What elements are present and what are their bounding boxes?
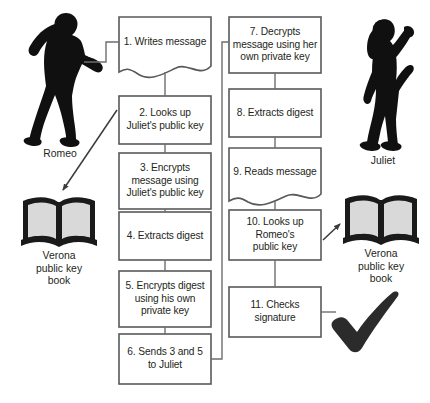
open-book-icon-right (343, 195, 419, 245)
open-book-icon-left (21, 197, 97, 247)
step-1-shape (119, 17, 211, 77)
step-5-shape (119, 271, 211, 327)
connector-step6-step7 (211, 42, 229, 359)
step-10-shape (229, 210, 321, 260)
step-2-shape (119, 96, 211, 144)
step-4-shape (119, 212, 211, 260)
step-11-shape (229, 287, 321, 337)
step-8-shape (229, 89, 321, 137)
step-9-shape (229, 148, 321, 205)
juliet-silhouette (360, 19, 414, 151)
flowchart-diagram: 1. Writes message 2. Looks up Juliet's p… (0, 0, 430, 403)
left-book-label: Verona public key book (17, 250, 101, 288)
arrow-step10-to-right-book (323, 224, 340, 240)
diagram-graphics (0, 0, 430, 403)
step-7-shape (229, 17, 321, 73)
check-mark-icon (332, 292, 399, 353)
step-3-shape (119, 153, 211, 209)
right-book-label: Verona public key book (339, 248, 423, 286)
romeo-silhouette (24, 13, 103, 147)
step-6-shape (119, 334, 211, 384)
juliet-label: Juliet (341, 155, 425, 168)
romeo-label: Romeo (18, 148, 102, 161)
